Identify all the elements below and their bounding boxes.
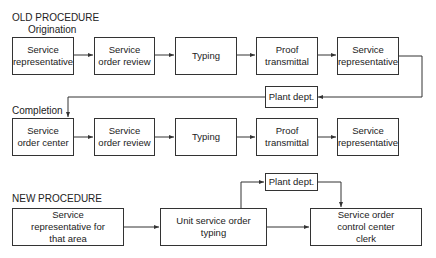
- new-procedure-title: NEW PROCEDURE: [12, 193, 102, 204]
- new-step-1: Service representative for that area: [12, 208, 124, 246]
- completion-label: Completion: [12, 105, 63, 116]
- origination-step-2: Service order review: [94, 37, 155, 75]
- completion-step-5: Service representative: [337, 118, 399, 156]
- completion-step-3: Typing: [175, 118, 237, 156]
- new-step-2: Unit service order typing: [160, 208, 267, 246]
- completion-step-2: Service order review: [94, 118, 155, 156]
- new-step-3: Service order control center clerk: [310, 208, 422, 246]
- new-plant-dept: Plant dept.: [265, 173, 318, 191]
- origination-label: Origination: [28, 24, 76, 35]
- origination-step-3: Typing: [175, 37, 237, 75]
- origination-step-4: Proof transmittal: [256, 37, 318, 75]
- origination-step-5: Service representative: [337, 37, 399, 75]
- origination-step-1: Service representative: [12, 37, 74, 75]
- old-procedure-title: OLD PROCEDURE: [12, 12, 99, 23]
- completion-step-1: Service order center: [12, 118, 74, 156]
- old-plant-dept: Plant dept.: [265, 86, 318, 108]
- completion-step-4: Proof transmittal: [256, 118, 318, 156]
